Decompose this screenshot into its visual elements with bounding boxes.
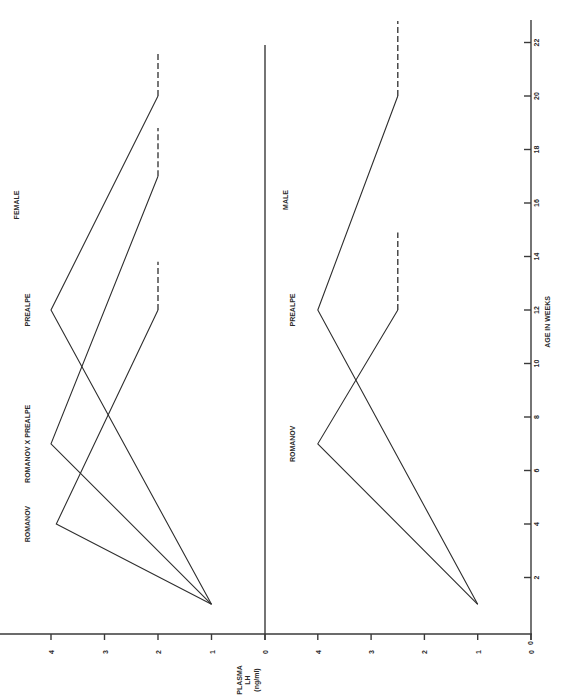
series-line-prealpe xyxy=(51,96,212,604)
lh-tick-label: 0 xyxy=(528,650,535,654)
y-axis-title-line3: (ng/ml) xyxy=(253,668,261,691)
lh-tick-label: 2 xyxy=(421,650,428,654)
y-axis-title-line2: LH xyxy=(244,675,251,684)
age-tick-label: 10 xyxy=(533,360,540,368)
age-tick-label: 20 xyxy=(533,92,540,100)
series-line-romanov xyxy=(56,310,211,604)
age-tick-label: 4 xyxy=(533,522,540,526)
series-line-romanov-x-prealpe xyxy=(51,176,212,604)
lh-tick-label: 0 xyxy=(262,650,269,654)
lh-tick-label: 4 xyxy=(315,650,322,654)
series-label: ROMANOV xyxy=(24,505,31,542)
age-tick-label: 16 xyxy=(533,199,540,207)
chart-labels: FEMALE MALE AGE IN WEEKS PLASMA LH (ng/m… xyxy=(13,190,551,695)
age-tick-label: 2 xyxy=(533,575,540,579)
lh-tick-label: 4 xyxy=(48,650,55,654)
age-tick-label: 18 xyxy=(533,146,540,154)
age-tick-label: 6 xyxy=(533,468,540,472)
series-label: ROMANOV xyxy=(289,425,296,462)
age-tick-label: 0 xyxy=(527,641,534,645)
age-tick-label: 12 xyxy=(533,306,540,314)
age-tick-label: 8 xyxy=(533,415,540,419)
female-panel-title: FEMALE xyxy=(13,190,20,219)
series-line-prealpe xyxy=(318,96,478,604)
age-tick-label: 14 xyxy=(533,253,540,261)
male-panel-title: MALE xyxy=(282,190,289,210)
lh-tick-label: 1 xyxy=(209,650,216,654)
lh-tick-label: 2 xyxy=(155,650,162,654)
lh-tick-label: 3 xyxy=(102,650,109,654)
lh-tick-label: 1 xyxy=(475,650,482,654)
axis-ticks: 01234012340246810121416182022 xyxy=(48,39,540,654)
age-tick-label: 22 xyxy=(533,39,540,47)
x-axis-title: AGE IN WEEKS xyxy=(544,296,551,348)
series-label: PREALPE xyxy=(289,293,296,326)
y-axis-title-line1: PLASMA xyxy=(236,665,243,695)
lh-age-chart: 01234012340246810121416182022 ROMANOVROM… xyxy=(0,0,566,696)
series-lines: ROMANOVROMANOV X PREALPEPREALPEROMANOVPR… xyxy=(24,21,478,604)
series-label: PREALPE xyxy=(24,293,31,326)
lh-tick-label: 3 xyxy=(368,650,375,654)
series-label: ROMANOV X PREALPE xyxy=(24,404,31,483)
